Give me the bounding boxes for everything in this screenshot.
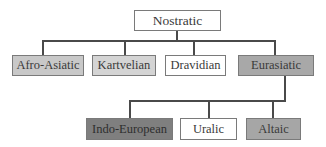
node-altaic: Altaic xyxy=(246,118,301,140)
connector-eurasiatic-stem xyxy=(284,75,286,101)
connector-eurasiatic xyxy=(274,40,276,55)
connector-dravidian xyxy=(193,40,195,55)
node-eurasiatic: Eurasiatic xyxy=(238,55,314,76)
connector-uralic xyxy=(208,100,210,118)
node-dravidian: Dravidian xyxy=(165,55,226,76)
connector-afro-asiatic xyxy=(42,40,44,55)
node-nostratic: Nostratic xyxy=(134,10,221,31)
node-uralic: Uralic xyxy=(180,118,237,140)
connector-indo-european xyxy=(129,100,131,118)
node-afro-asiatic: Afro-Asiatic xyxy=(12,55,84,76)
connector-altaic xyxy=(272,100,274,118)
connector-level1-bar xyxy=(42,40,275,42)
node-indo-european: Indo-European xyxy=(86,118,173,140)
connector-kartvelian xyxy=(124,40,126,55)
node-kartvelian: Kartvelian xyxy=(92,55,156,76)
